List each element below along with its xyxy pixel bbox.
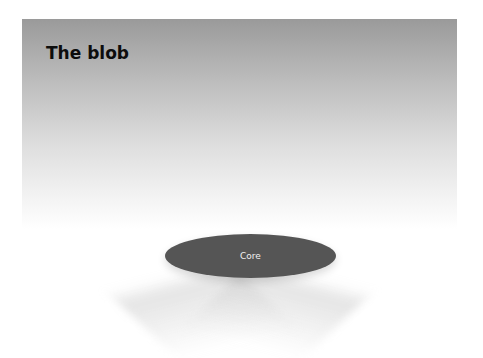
gradient-panel: The blob <box>22 19 457 229</box>
diagram-title: The blob <box>46 43 129 63</box>
core-ellipse: Core <box>165 234 336 278</box>
core-label: Core <box>240 251 261 261</box>
